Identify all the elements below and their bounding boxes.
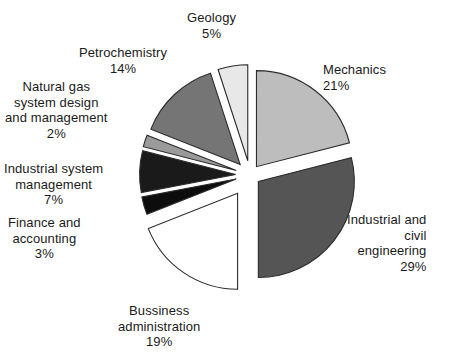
- pie-slice-label-percent: 7%: [4, 192, 103, 208]
- pie-slice-label-name: management: [4, 177, 103, 193]
- pie-slice-label-name: engineering: [347, 243, 426, 259]
- pie-slice-label-name: system design: [5, 95, 108, 111]
- pie-slice-label-name: administration: [118, 319, 200, 335]
- pie-chart-figure: Mechanics21%Industrial andcivilengineeri…: [0, 0, 455, 358]
- pie-slice-label: Natural gassystem designand management2%: [5, 79, 108, 141]
- pie-slices-group: [140, 65, 355, 289]
- pie-slice-label-name: Geology: [187, 10, 236, 26]
- pie-slice-label-percent: 21%: [323, 78, 386, 94]
- pie-slice-label-name: Bussiness: [118, 303, 200, 319]
- pie-slice-label: Petrochemistry14%: [79, 45, 167, 76]
- pie-slice-label: Mechanics21%: [323, 62, 386, 93]
- pie-slice-label-percent: 14%: [79, 61, 167, 77]
- pie-slice-label: Industrial systemmanagement7%: [4, 161, 103, 208]
- pie-slice-label: Bussinessadministration19%: [118, 303, 200, 350]
- pie-slice-label-name: accounting: [8, 231, 81, 247]
- pie-slice-label-percent: 19%: [118, 334, 200, 350]
- pie-slice-label-percent: 29%: [347, 259, 426, 275]
- pie-slice-label-name: Natural gas: [5, 79, 108, 95]
- pie-slice-label-name: Mechanics: [323, 62, 386, 78]
- pie-slice-label-name: Industrial and: [347, 212, 426, 228]
- pie-slice-label-percent: 2%: [5, 126, 108, 142]
- pie-slice-label-name: Finance and: [8, 215, 81, 231]
- pie-slice-label: Finance andaccounting3%: [8, 215, 81, 262]
- pie-slice-label-name: Petrochemistry: [79, 45, 167, 61]
- pie-slice[interactable]: [258, 158, 354, 278]
- pie-slice-label-percent: 3%: [8, 246, 81, 262]
- pie-slice-label-name: civil: [347, 228, 426, 244]
- pie-slice-label: Industrial andcivilengineering29%: [347, 212, 426, 274]
- pie-slice-label-name: and management: [5, 110, 108, 126]
- pie-slice-label: Geology5%: [187, 10, 236, 41]
- pie-slice-label-percent: 5%: [187, 26, 236, 42]
- pie-slice-label-name: Industrial system: [4, 161, 103, 177]
